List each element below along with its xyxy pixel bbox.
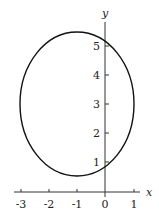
x-tick-label: -3 [16,198,27,211]
y-tick-label: 2 [93,127,100,140]
x-tick-label: -2 [44,198,55,211]
y-axis-label: y [101,7,109,20]
x-axis-label: x [146,186,153,199]
y-tick-label: 4 [93,69,100,82]
x-tick-label: 1 [131,198,138,211]
y-tick-label: 3 [93,98,100,111]
x-tick-label: -1 [72,198,83,211]
y-ticks [105,46,109,162]
y-tick-label: 5 [93,40,100,53]
x-tick-label: 0 [102,198,109,211]
ellipse-curve [20,32,134,176]
y-tick-label: 1 [93,156,100,169]
chart: -3 -2 -1 0 1 5 4 3 2 1 x y [0,0,159,218]
